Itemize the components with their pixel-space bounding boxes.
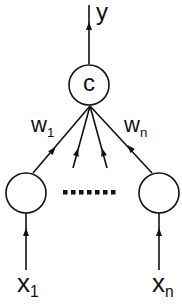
weight-wn-subscript: n — [140, 125, 147, 140]
weight-label-wn: wn — [124, 114, 147, 139]
arrow-xn-icon — [156, 228, 162, 236]
input-x1-base: x — [17, 268, 30, 298]
input-xn-base: x — [152, 268, 165, 298]
input-xn-subscript: n — [165, 283, 174, 300]
input-x1-subscript: 1 — [30, 283, 39, 300]
output-label-y: y — [96, 0, 108, 24]
arrow-mid-right-icon — [99, 147, 107, 156]
ellipsis-dots — [63, 190, 116, 195]
arrow-mid-left-icon — [73, 147, 81, 156]
weight-label-w1: w1 — [31, 114, 54, 139]
neural-diagram — [0, 0, 182, 306]
input-label-xn: xn — [152, 270, 174, 300]
weight-w1-base: w — [31, 112, 47, 137]
output-arrow-icon — [86, 22, 92, 30]
combiner-label: c — [77, 71, 101, 95]
weight-w1-subscript: 1 — [47, 125, 54, 140]
weight-wn-base: w — [124, 112, 140, 137]
arrow-x1-icon — [23, 228, 29, 236]
input-node-1 — [6, 173, 46, 213]
input-label-x1: x1 — [17, 270, 39, 300]
input-node-n — [139, 173, 179, 213]
